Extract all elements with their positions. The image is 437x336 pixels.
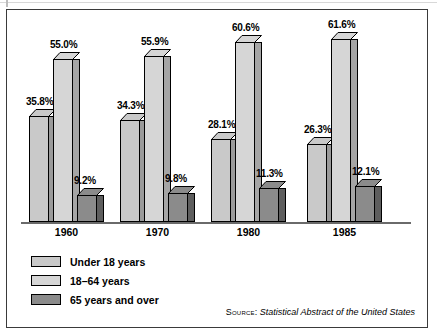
value-label-1960-series-1: 35.8% — [26, 96, 53, 107]
bar-side-face — [279, 188, 286, 222]
source-title-label: Statistical Abstract of the United State… — [260, 307, 415, 317]
bar-1970-series-3 — [168, 193, 188, 222]
scan-artifact-line — [0, 2, 437, 3]
value-label-1980-series-2: 60.6% — [232, 22, 259, 33]
value-label-1980-series-3: 11.3% — [256, 168, 283, 179]
bar-1985-series-3 — [355, 186, 375, 222]
value-label-1960-series-2: 55.0% — [50, 39, 77, 50]
bar-top-face — [211, 132, 238, 139]
bar-1970-series-1 — [120, 120, 140, 222]
bar-top-face — [307, 137, 334, 144]
bar-top-face — [259, 181, 286, 188]
legend-label-18-64: 18–64 years — [70, 275, 130, 287]
bar-front-face — [331, 39, 351, 222]
bar-1980-series-3 — [259, 188, 279, 222]
value-label-1960-series-3: 9.2% — [74, 175, 96, 186]
category-label-1970: 1970 — [120, 226, 195, 238]
bar-1970-series-2 — [144, 56, 164, 222]
bar-top-face — [168, 186, 195, 193]
bar-1980-series-1 — [211, 139, 231, 222]
bar-1985-series-2 — [331, 39, 351, 222]
legend-swatch-18-64 — [31, 275, 61, 286]
value-label-1985-series-1: 26.3% — [304, 124, 331, 135]
bar-top-face — [29, 109, 56, 116]
bar-front-face — [77, 195, 97, 222]
bar-top-face — [355, 179, 382, 186]
bar-front-face — [235, 42, 255, 222]
chart-frame: 35.8%55.0%9.2%34.3%55.9%9.8%28.1%60.6%11… — [6, 9, 428, 328]
bar-top-face — [331, 32, 358, 39]
bar-1960-series-1 — [29, 116, 49, 222]
scan-artifact-tick — [6, 0, 8, 7]
bar-front-face — [144, 56, 164, 222]
bar-top-face — [77, 188, 104, 195]
bar-side-face — [188, 193, 195, 222]
bar-front-face — [355, 186, 375, 222]
value-label-1970-series-3: 9.8% — [165, 173, 187, 184]
value-label-1970-series-1: 34.3% — [117, 100, 144, 111]
category-label-1960: 1960 — [29, 226, 104, 238]
legend-label-65-and-over: 65 years and over — [70, 294, 159, 306]
bar-front-face — [168, 193, 188, 222]
category-label-1985: 1985 — [307, 226, 382, 238]
bar-front-face — [211, 139, 231, 222]
x-axis-baseline — [21, 222, 411, 224]
bar-1960-series-3 — [77, 195, 97, 222]
source-prefix-label: Source: — [226, 307, 258, 317]
legend-item-under-18: Under 18 years — [31, 253, 159, 270]
bar-front-face — [259, 188, 279, 222]
bar-top-face — [144, 49, 171, 56]
bar-side-face — [375, 186, 382, 222]
category-label-1980: 1980 — [211, 226, 286, 238]
value-label-1985-series-2: 61.6% — [328, 19, 355, 30]
chart-legend: Under 18 years 18–64 years 65 years and … — [31, 253, 159, 310]
bar-top-face — [120, 113, 147, 120]
bar-1985-series-1 — [307, 144, 327, 222]
bar-top-face — [235, 35, 262, 42]
legend-swatch-under-18 — [31, 256, 61, 267]
bar-1960-series-2 — [53, 59, 73, 222]
legend-item-65-and-over: 65 years and over — [31, 291, 159, 308]
bar-front-face — [120, 120, 140, 222]
value-label-1985-series-3: 12.1% — [352, 166, 379, 177]
source-note: Source: Statistical Abstract of the Unit… — [226, 307, 415, 317]
bar-top-face — [53, 52, 80, 59]
bar-front-face — [29, 116, 49, 222]
bar-front-face — [307, 144, 327, 222]
legend-label-under-18: Under 18 years — [70, 256, 145, 268]
legend-swatch-65-and-over — [31, 294, 61, 305]
value-label-1980-series-1: 28.1% — [208, 119, 235, 130]
bar-front-face — [53, 59, 73, 222]
bar-side-face — [97, 195, 104, 222]
value-label-1970-series-2: 55.9% — [141, 36, 168, 47]
bar-1980-series-2 — [235, 42, 255, 222]
legend-item-18-64: 18–64 years — [31, 272, 159, 289]
